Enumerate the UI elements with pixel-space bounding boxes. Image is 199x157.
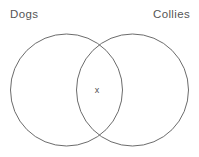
intersection-marker-x: x [91, 84, 103, 96]
venn-circles [0, 0, 199, 157]
venn-diagram: Dogs Collies x [0, 0, 199, 157]
set-circle-dogs [11, 34, 123, 146]
